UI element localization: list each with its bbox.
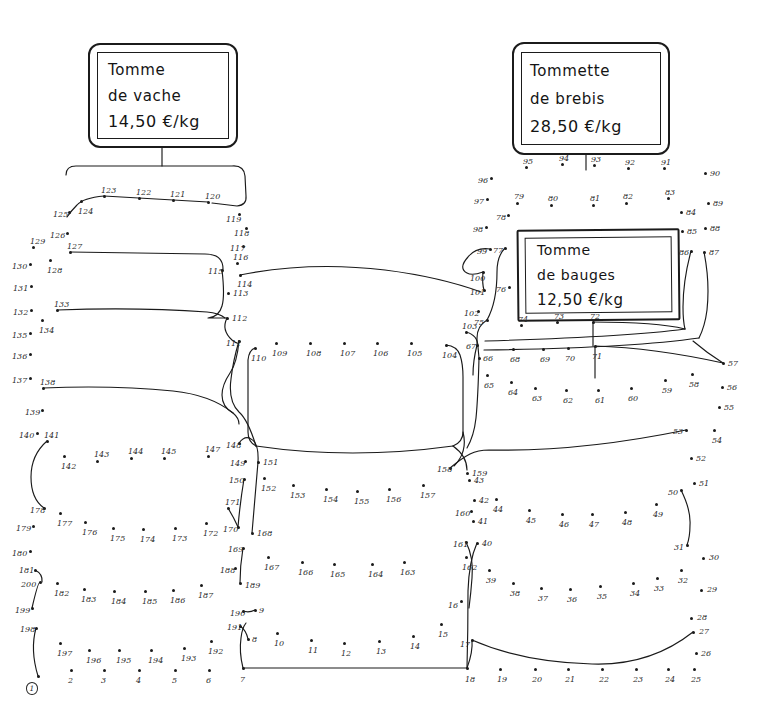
dot-113[interactable] (227, 292, 230, 295)
dot-76[interactable] (508, 286, 511, 289)
dot-87[interactable] (703, 251, 706, 254)
dot-124[interactable] (80, 200, 83, 203)
dot-4[interactable] (138, 669, 141, 672)
dot-156[interactable] (388, 488, 391, 491)
dot-47[interactable] (591, 513, 594, 516)
dot-186[interactable] (172, 589, 175, 592)
dot-105[interactable] (410, 342, 413, 345)
dot-27[interactable] (692, 631, 695, 634)
dot-62[interactable] (565, 389, 568, 392)
dot-66[interactable] (478, 357, 481, 360)
dot-15[interactable] (440, 623, 443, 626)
dot-12[interactable] (343, 642, 346, 645)
dot-5[interactable] (174, 669, 177, 672)
dot-9[interactable] (254, 609, 257, 612)
dot-14[interactable] (412, 635, 415, 638)
dot-69[interactable] (542, 348, 545, 351)
dot-187[interactable] (200, 584, 203, 587)
dot-10[interactable] (276, 632, 279, 635)
dot-104[interactable] (445, 344, 448, 347)
dot-70[interactable] (567, 347, 570, 350)
dot-33[interactable] (656, 577, 659, 580)
dot-30[interactable] (702, 557, 705, 560)
dot-6[interactable] (208, 669, 211, 672)
dot-13[interactable] (378, 640, 381, 643)
dot-49[interactable] (655, 503, 658, 506)
dot-199[interactable] (31, 607, 34, 610)
dot-112[interactable] (226, 317, 229, 320)
dot-43[interactable] (468, 479, 471, 482)
dot-32[interactable] (680, 569, 683, 572)
dot-53[interactable] (685, 429, 688, 432)
dot-22[interactable] (601, 668, 604, 671)
dot-192[interactable] (210, 640, 213, 643)
dot-106[interactable] (376, 342, 379, 345)
dot-90[interactable] (704, 172, 707, 175)
dot-63[interactable] (534, 387, 537, 390)
dot-38[interactable] (512, 582, 515, 585)
dot-172[interactable] (205, 522, 208, 525)
dot-98[interactable] (485, 226, 488, 229)
dot-164[interactable] (371, 563, 374, 566)
dot-152[interactable] (263, 477, 266, 480)
dot-61[interactable] (597, 389, 600, 392)
dot-45[interactable] (528, 509, 531, 512)
dot-2[interactable] (70, 669, 73, 672)
dot-107[interactable] (343, 342, 346, 345)
dot-24[interactable] (667, 668, 670, 671)
dot-11[interactable] (310, 639, 313, 642)
dot-143[interactable] (96, 460, 99, 463)
dot-193[interactable] (183, 647, 186, 650)
dot-137[interactable] (29, 377, 32, 380)
dot-16[interactable] (460, 600, 463, 603)
dot-85[interactable] (681, 230, 684, 233)
dot-140[interactable] (36, 432, 39, 435)
dot-56[interactable] (721, 386, 724, 389)
dot-97[interactable] (486, 198, 489, 201)
dot-65[interactable] (486, 374, 489, 377)
dot-174[interactable] (142, 528, 145, 531)
dot-25[interactable] (693, 668, 696, 671)
dot-57[interactable] (722, 362, 725, 365)
dot-179[interactable] (32, 525, 35, 528)
dot-126[interactable] (66, 232, 69, 235)
dot-132[interactable] (30, 309, 33, 312)
dot-77[interactable] (504, 247, 507, 250)
dot-89[interactable] (707, 202, 710, 205)
dot-166[interactable] (301, 561, 304, 564)
dot-184[interactable] (113, 590, 116, 593)
dot-144[interactable] (130, 457, 133, 460)
dot-86[interactable] (690, 250, 693, 253)
dot-176[interactable] (84, 521, 87, 524)
dot-20[interactable] (534, 668, 537, 671)
dot-29[interactable] (700, 589, 703, 592)
dot-7[interactable] (242, 667, 245, 670)
dot-180[interactable] (29, 550, 32, 553)
dot-58[interactable] (691, 373, 694, 376)
dot-135[interactable] (29, 332, 32, 335)
dot-42[interactable] (473, 499, 476, 502)
dot-131[interactable] (30, 285, 33, 288)
dot-108[interactable] (309, 342, 312, 345)
dot-134[interactable] (41, 319, 44, 322)
dot-114[interactable] (239, 274, 242, 277)
dot-81[interactable] (592, 204, 595, 207)
dot-21[interactable] (567, 668, 570, 671)
dot-48[interactable] (624, 511, 627, 514)
dot-51[interactable] (693, 482, 696, 485)
dot-183[interactable] (83, 588, 86, 591)
dot-196[interactable] (88, 649, 91, 652)
dot-41[interactable] (472, 520, 475, 523)
dot-136[interactable] (29, 353, 32, 356)
dot-50[interactable] (680, 489, 683, 492)
dot-147[interactable] (207, 455, 210, 458)
dot-71[interactable] (594, 345, 597, 348)
dot-59[interactable] (664, 379, 667, 382)
dot-44[interactable] (495, 498, 498, 501)
dot-75[interactable] (486, 319, 489, 322)
dot-139[interactable] (41, 409, 44, 412)
dot-3[interactable] (103, 669, 106, 672)
dot-165[interactable] (333, 563, 336, 566)
dot-195[interactable] (118, 649, 121, 652)
dot-162[interactable] (465, 556, 468, 559)
